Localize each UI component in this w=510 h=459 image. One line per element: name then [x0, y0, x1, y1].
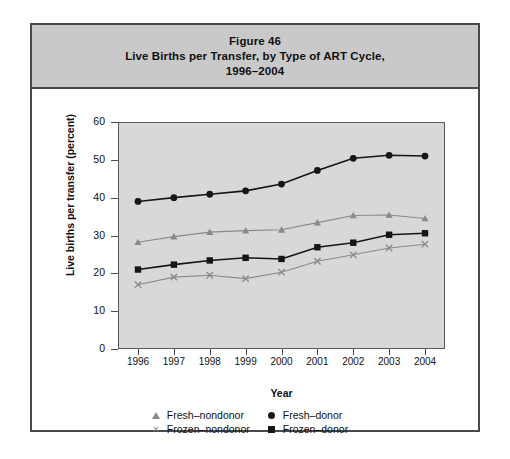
chart-area: 0102030405060 19961997199819992000200120…	[32, 89, 478, 430]
legend-label-frozen-nondonor: Frozen–nondonor	[167, 423, 264, 437]
legend-label-frozen-donor: Frozen–donor	[283, 423, 362, 437]
y-tick-label: 0	[75, 342, 105, 354]
x-tick-mark	[246, 349, 247, 355]
y-tick-label: 20	[75, 266, 105, 278]
series-line	[138, 233, 425, 269]
data-point	[171, 261, 177, 267]
data-point	[242, 255, 248, 261]
data-point	[422, 230, 428, 236]
y-tick-label: 50	[75, 153, 105, 165]
legend-row: × Frozen–nondonor Frozen–donor	[148, 423, 362, 437]
data-point	[170, 194, 177, 201]
x-tick-mark	[282, 349, 283, 355]
y-tick-mark	[111, 122, 118, 123]
x-tick-label: 2001	[297, 356, 337, 367]
figure-frame: Figure 46 Live Births per Transfer, by T…	[30, 23, 480, 432]
series-line	[138, 155, 425, 201]
y-tick-label: 10	[75, 304, 105, 316]
figure-number: Figure 46	[229, 34, 281, 49]
data-point	[386, 232, 392, 238]
x-tick-mark	[317, 349, 318, 355]
x-tick-label: 2000	[262, 356, 302, 367]
x-axis-title: Year	[118, 387, 445, 399]
data-point	[207, 257, 213, 263]
figure-title-line: Live Births per Transfer, by Type of ART…	[125, 49, 385, 64]
legend-row: Fresh–nondonor Fresh–donor	[148, 409, 362, 423]
legend-label-fresh-nondonor: Fresh–nondonor	[167, 409, 264, 423]
data-point	[135, 198, 142, 205]
x-tick-label: 2002	[333, 356, 373, 367]
x-tick-label: 1998	[190, 356, 230, 367]
y-tick-label: 30	[75, 229, 105, 241]
y-tick-mark	[111, 160, 118, 161]
y-axis-title: Live births per transfer (percent)	[64, 95, 76, 295]
x-tick-mark	[353, 349, 354, 355]
series-fresh-donor	[135, 152, 429, 205]
figure-title-band: Figure 46 Live Births per Transfer, by T…	[32, 25, 478, 89]
data-point	[135, 266, 141, 272]
triangle-marker-icon	[148, 409, 167, 423]
data-point	[350, 155, 357, 162]
legend-table: Fresh–nondonor Fresh–donor × Frozen–nond…	[148, 409, 362, 437]
legend-label-fresh-donor: Fresh–donor	[283, 409, 362, 423]
x-tick-mark	[389, 349, 390, 355]
y-tick-mark	[111, 311, 118, 312]
data-point	[206, 191, 213, 198]
data-point	[314, 167, 321, 174]
circle-marker-icon	[264, 409, 283, 423]
y-tick-mark	[111, 198, 118, 199]
chart-series-layer	[118, 122, 445, 349]
data-point	[242, 187, 249, 194]
y-tick-label: 60	[75, 115, 105, 127]
x-tick-label: 2004	[405, 356, 445, 367]
data-point	[314, 244, 320, 250]
chart-legend: Fresh–nondonor Fresh–donor × Frozen–nond…	[32, 409, 478, 437]
figure-title-years: 1996–2004	[226, 64, 284, 79]
x-tick-mark	[138, 349, 139, 355]
x-tick-label: 1999	[226, 356, 266, 367]
x-tick-label: 1997	[154, 356, 194, 367]
data-point	[350, 239, 356, 245]
square-marker-icon	[264, 423, 283, 437]
data-point	[278, 181, 285, 188]
series-fresh-nondonor	[134, 211, 428, 245]
x-tick-mark	[174, 349, 175, 355]
cross-marker-icon: ×	[148, 423, 167, 437]
x-tick-mark	[425, 349, 426, 355]
x-tick-mark	[210, 349, 211, 355]
data-point	[386, 152, 393, 159]
data-point	[278, 256, 284, 262]
y-tick-mark	[111, 273, 118, 274]
data-point	[422, 153, 429, 160]
y-tick-label: 40	[75, 191, 105, 203]
x-tick-label: 1996	[118, 356, 158, 367]
x-tick-label: 2003	[369, 356, 409, 367]
y-tick-mark	[111, 236, 118, 237]
y-tick-mark	[111, 349, 118, 350]
